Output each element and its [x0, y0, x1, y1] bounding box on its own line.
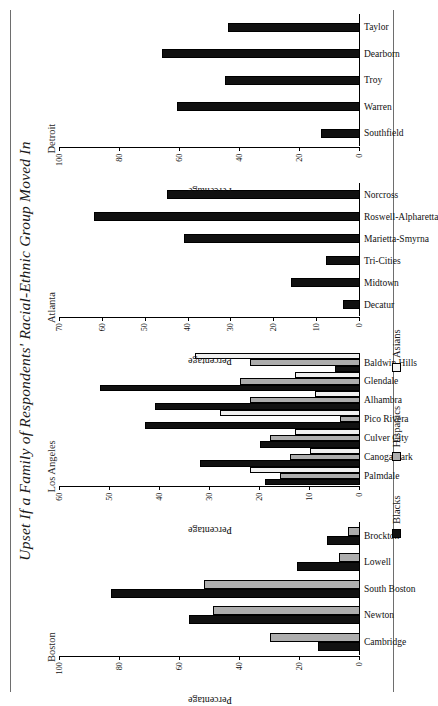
bar-group: Palmdale [60, 467, 360, 486]
legend-swatch-asians [392, 363, 401, 372]
y-axis-tick [309, 487, 310, 491]
bar-asians [295, 429, 360, 435]
y-axis-tick [359, 317, 360, 321]
y-axis-tick [188, 317, 189, 321]
y-axis-tick-label: 40 [236, 662, 244, 670]
bar-blacks [321, 129, 360, 138]
bar-blacks [200, 460, 360, 466]
y-axis-tick [273, 317, 274, 321]
legend-item: Hispanics [391, 406, 402, 461]
bar-group: Culver City [60, 429, 360, 448]
y-axis: 020406080100Percentage [60, 148, 360, 178]
y-axis: 010203040506070Percentage [60, 317, 360, 347]
chart-legend: BlacksHispanicsAsians [388, 10, 404, 688]
y-axis-spine [60, 656, 360, 657]
y-axis-caption: Percentage [188, 695, 232, 706]
bar-group: Troy [60, 67, 360, 94]
y-axis-tick [259, 487, 260, 491]
bar-blacks [335, 366, 360, 372]
y-axis-tick [299, 148, 300, 152]
bar-blacks [326, 256, 360, 265]
y-axis-tick-label: 40 [184, 323, 192, 331]
y-axis-tick [109, 487, 110, 491]
y-axis-tick [239, 656, 240, 660]
y-axis-tick [59, 487, 60, 491]
y-axis-tick [359, 656, 360, 660]
bar-group: Midtown [60, 272, 360, 294]
bar-asians [295, 372, 360, 378]
page-title: Upset If a Family of Respondents' Racial… [16, 0, 34, 702]
bar-group: Newton [60, 602, 360, 629]
bar-group: Marietta-Smyrna [60, 228, 360, 250]
legend-item: Blacks [391, 495, 402, 538]
bar-group: Lowell [60, 549, 360, 576]
bar-hispanics [204, 580, 360, 589]
bar-group: Roswell-Alpharetta [60, 206, 360, 228]
y-axis-tick-label: 10 [313, 323, 321, 331]
y-axis-tick-label: 60 [56, 493, 64, 501]
bar-blacks [184, 234, 360, 243]
bar-hispanics [213, 606, 360, 615]
bars-container: CambridgeNewtonSouth BostonLowellBrockto… [60, 523, 360, 656]
bar-blacks [225, 76, 360, 85]
bar-group: Canoga Park [60, 448, 360, 467]
bar-group: Dearborn [60, 41, 360, 68]
top-rule [10, 10, 11, 692]
plot-area: 020406080100PercentageSouthfieldWarrenTr… [60, 14, 386, 178]
legend-label: Hispanics [391, 406, 402, 447]
legend-item: Asians [391, 329, 402, 372]
bar-blacks [343, 300, 360, 309]
legend-label: Blacks [391, 495, 402, 524]
y-axis-tick-label: 80 [116, 154, 124, 162]
bar-hispanics [270, 435, 360, 441]
bar-hispanics [250, 397, 360, 403]
bar-hispanics [339, 553, 360, 562]
y-axis-tick-label: 60 [176, 154, 184, 162]
bar-asians [315, 391, 360, 397]
bar-blacks [228, 23, 360, 32]
y-axis-tick [145, 317, 146, 321]
bar-group: Decatur [60, 294, 360, 316]
bars-container: PalmdaleCanoga ParkCulver CityPico River… [60, 353, 360, 486]
y-axis-tick-label: 100 [56, 662, 64, 674]
y-axis-tick-label: 40 [156, 493, 164, 501]
y-axis-tick-label: 20 [270, 323, 278, 331]
y-axis-tick-label: 30 [227, 323, 235, 331]
bar-blacks [265, 479, 360, 485]
legend-label: Asians [391, 329, 402, 358]
y-axis-tick-label: 60 [99, 323, 107, 331]
bar-asians [220, 410, 360, 416]
bar-hispanics [280, 473, 360, 479]
bar-hispanics [290, 454, 360, 460]
bar-blacks [94, 212, 360, 221]
bar-blacks [111, 589, 360, 598]
bar-hispanics [270, 633, 360, 642]
plot-area: 0102030405060PercentagePalmdaleCanoga Pa… [60, 353, 386, 517]
y-axis-spine [60, 317, 360, 318]
y-axis-tick [239, 148, 240, 152]
y-axis-tick-label: 60 [176, 662, 184, 670]
y-axis-tick [179, 656, 180, 660]
panel-los-angeles: Los Angeles0102030405060PercentagePalmda… [44, 349, 386, 519]
bar-blacks [162, 49, 360, 58]
y-axis-tick-label: 30 [206, 493, 214, 501]
bar-group: South Boston [60, 576, 360, 603]
plot-area: 010203040506070PercentageDecaturMidtownT… [60, 184, 386, 348]
y-axis-tick-label: 10 [306, 493, 314, 501]
y-axis-caption: Percentage [188, 186, 232, 197]
y-axis-spine [60, 487, 360, 488]
y-axis-tick [59, 317, 60, 321]
y-axis-spine [60, 148, 360, 149]
y-axis-tick-label: 80 [116, 662, 124, 670]
bar-blacks [189, 615, 360, 624]
bar-hispanics [240, 378, 360, 384]
x-axis-tick-label: Lowell [364, 557, 391, 567]
bar-group: Taylor [60, 14, 360, 41]
panel-detroit: Detroit020406080100PercentageSouthfieldW… [44, 10, 386, 180]
bar-asians [250, 467, 360, 473]
bar-blacks [291, 278, 360, 287]
y-axis-tick-label: 20 [296, 662, 304, 670]
y-axis: 0102030405060Percentage [60, 487, 360, 517]
